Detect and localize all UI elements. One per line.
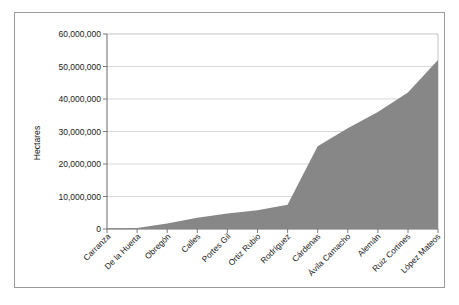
x-tick-label-aleman: Alemán: [355, 231, 382, 258]
y-axis-title: Hectares: [32, 126, 42, 160]
y-tick-label: 0: [96, 224, 101, 234]
x-tick-labels: Carranza De la Huerta Obregón Calles Por…: [81, 231, 442, 278]
y-tick-label: 10,000,000: [58, 192, 101, 202]
y-tick-marks: [103, 34, 107, 229]
x-tick-label-calles: Calles: [179, 231, 202, 254]
y-tick-label: 40,000,000: [58, 94, 101, 104]
y-tick-label: 20,000,000: [58, 159, 101, 169]
chart-figure: Hectares 60,000,000 50,000,000 40,000,00…: [14, 12, 445, 288]
area-series: [107, 60, 438, 229]
y-tick-labels: 60,000,000 50,000,000 40,000,000 30,000,…: [58, 29, 101, 234]
x-tick-label-rodriguez: Rodríguez: [258, 231, 292, 265]
area-chart: Hectares 60,000,000 50,000,000 40,000,00…: [15, 13, 446, 289]
x-tick-marks: [107, 229, 438, 233]
y-tick-label: 60,000,000: [58, 29, 101, 39]
y-tick-label: 50,000,000: [58, 62, 101, 72]
x-tick-label-obregon: Obregón: [143, 231, 173, 261]
y-tick-label: 30,000,000: [58, 127, 101, 137]
x-tick-label-ortiz-rubio: Ortiz Rubio: [226, 231, 263, 268]
